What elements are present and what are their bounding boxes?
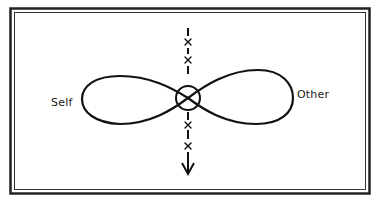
x-mark-icon (185, 143, 191, 149)
x-mark-icon (185, 39, 191, 45)
x-mark-icon (185, 122, 191, 128)
other-label: Other (297, 88, 329, 101)
self-label: Self (51, 96, 72, 109)
x-mark-icon (185, 57, 191, 63)
self-loop (82, 76, 188, 124)
other-loop (188, 70, 293, 124)
figure-eight-diagram: Self Other (0, 0, 380, 205)
